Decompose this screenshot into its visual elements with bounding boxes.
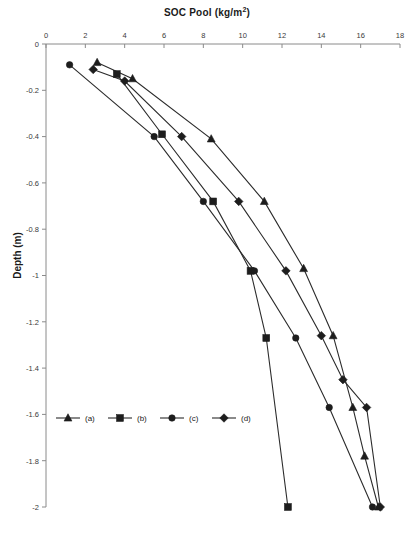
x-tick-label: 16 <box>356 31 364 40</box>
data-point-square <box>285 504 292 511</box>
x-tick-label: 12 <box>278 31 286 40</box>
x-tick-label: 0 <box>44 31 48 40</box>
data-point-circle <box>151 133 157 139</box>
data-point-triangle <box>64 414 72 421</box>
data-point-triangle <box>300 264 308 271</box>
data-point-circle <box>251 268 257 274</box>
data-point-diamond <box>317 331 326 340</box>
x-tick-label: 2 <box>83 31 87 40</box>
y-tick-label: -1.2 <box>26 318 39 327</box>
data-point-circle <box>66 62 72 68</box>
y-tick-label: -1.4 <box>26 364 39 373</box>
series-line-b <box>117 74 288 507</box>
legend-label: (d) <box>241 414 251 423</box>
data-point-triangle <box>361 452 369 459</box>
chart-legend: (a)(b)(c)(d) <box>56 414 251 423</box>
chart-container: SOC Pool (kg/m2) Depth (m) 0246810121416… <box>0 0 414 533</box>
x-tick-label: 14 <box>317 31 325 40</box>
y-tick-label: -1.6 <box>26 410 39 419</box>
series-line-d <box>93 69 380 507</box>
x-tick-label: 8 <box>201 31 205 40</box>
data-point-square <box>210 198 217 205</box>
data-point-square <box>159 131 166 138</box>
data-point-diamond <box>282 267 291 276</box>
legend-label: (c) <box>189 414 199 423</box>
y-tick-label: -2 <box>32 503 39 512</box>
y-tick-label: -1.8 <box>26 457 39 466</box>
data-point-circle <box>326 404 332 410</box>
y-tick-label: 0 <box>35 40 39 49</box>
data-point-circle <box>293 335 299 341</box>
x-tick-label: 6 <box>162 31 166 40</box>
series-line-a <box>97 63 378 507</box>
data-point-triangle <box>349 403 357 410</box>
x-tick-label: 10 <box>238 31 246 40</box>
x-tick-label: 4 <box>123 31 127 40</box>
data-point-square <box>117 415 124 422</box>
series-line-c <box>70 65 373 507</box>
y-tick-label: -0.6 <box>26 179 39 188</box>
chart-plot-area: 0246810121416180-0.2-0.4-0.6-0.8-1-1.2-1… <box>0 0 414 533</box>
legend-label: (a) <box>85 414 95 423</box>
data-point-triangle <box>207 135 215 142</box>
x-tick-label: 18 <box>396 31 404 40</box>
legend-label: (b) <box>137 414 147 423</box>
y-tick-label: -0.8 <box>26 225 39 234</box>
data-point-diamond <box>89 65 98 74</box>
y-tick-label: -0.4 <box>26 132 39 141</box>
data-point-circle <box>169 415 175 421</box>
data-point-square <box>113 71 120 78</box>
data-point-triangle <box>129 74 137 81</box>
data-point-diamond <box>220 414 229 423</box>
y-tick-label: -0.2 <box>26 86 39 95</box>
y-tick-label: -1 <box>32 271 39 280</box>
data-point-triangle <box>93 58 101 65</box>
data-point-circle <box>369 504 375 510</box>
data-point-circle <box>200 198 206 204</box>
data-point-triangle <box>329 331 337 338</box>
data-point-square <box>263 335 270 342</box>
